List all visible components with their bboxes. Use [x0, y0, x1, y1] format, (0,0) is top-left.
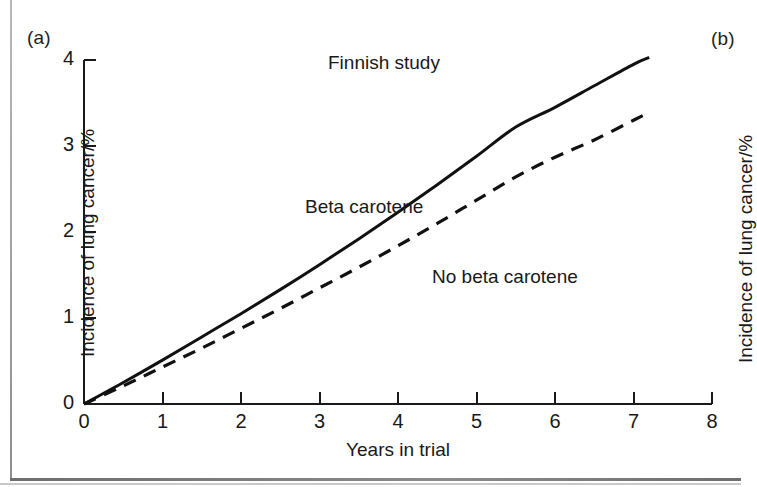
y-tick-label: 2: [52, 219, 74, 242]
y-tick-label: 3: [52, 133, 74, 156]
x-tick-label: 3: [308, 410, 332, 433]
x-tick-label: 7: [622, 410, 646, 433]
x-axis-title: Years in trial: [298, 439, 498, 461]
x-tick-label: 4: [386, 410, 410, 433]
y-tick-label: 4: [52, 47, 74, 70]
x-tick-label: 1: [151, 410, 175, 433]
y-tick-label: 1: [52, 305, 74, 328]
x-tick-label: 8: [700, 410, 724, 433]
chart-title-annotation: Finnish study: [328, 52, 440, 74]
series-label-no-beta-carotene: No beta carotene: [432, 266, 578, 288]
x-tick-label: 2: [229, 410, 253, 433]
data-series-line-2: [84, 112, 649, 404]
series-label-beta-carotene: Beta carotene: [305, 196, 423, 218]
series-layer: [84, 57, 649, 404]
y-axis-title: Incidence of lung cancer/%: [77, 93, 99, 393]
panel-b-y-axis-title: Incidence of lung cancer/%: [735, 99, 757, 399]
x-tick-label: 6: [543, 410, 567, 433]
x-tick-label: 0: [72, 410, 96, 433]
x-tick-label: 5: [465, 410, 489, 433]
data-series-line-1: [84, 57, 649, 404]
y-tick-label: 0: [52, 391, 74, 414]
